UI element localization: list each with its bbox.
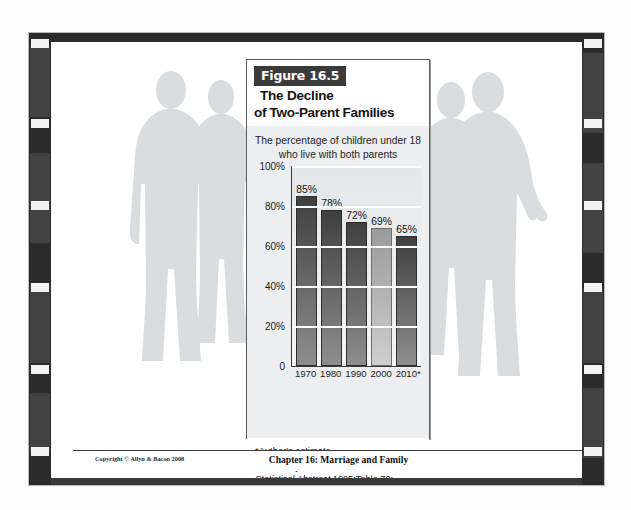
gridline (292, 166, 421, 168)
bar (396, 236, 417, 366)
slide-filmstrip-frame: Figure 16.5The Decline of Two-Parent Fam… (28, 32, 605, 486)
screenshot-root: Figure 16.5The Decline of Two-Parent Fam… (0, 0, 631, 510)
bar-value-label: 85% (296, 184, 317, 195)
x-axis-tick-label: 1970 (295, 368, 316, 379)
filmstrip-top-edge (29, 33, 604, 42)
filmstrip-left-edge (29, 33, 51, 485)
y-axis-tick-label: 60% (265, 241, 285, 252)
bar-column: 78% (321, 166, 342, 366)
gridline (292, 206, 421, 208)
chart-subtitle: The percentage of children under 18 who … (253, 134, 423, 161)
filmstrip-bottom-edge (29, 478, 604, 485)
bar-column: 69% (371, 166, 392, 366)
y-axis-tick-label: 100% (259, 161, 285, 172)
figure-title-line-2: of Two-Parent Families (254, 105, 422, 120)
figure-number-badge: Figure 16.5 (254, 66, 346, 86)
y-axis-tick-label: 20% (265, 321, 285, 332)
bar (346, 222, 367, 366)
bar-value-label: 65% (396, 224, 417, 235)
x-axis-tick-label: 1990 (345, 368, 366, 379)
y-axis-tick-label: 80% (265, 201, 285, 212)
bar-series: 85%78%72%69%65% (292, 166, 421, 366)
figure-card: Figure 16.5The Decline of Two-Parent Fam… (246, 59, 430, 439)
plot-area: 85%78%72%69%65% (291, 166, 421, 367)
x-axis-tick-label: 1980 (320, 368, 341, 379)
x-axis-tick-label: 2000 (370, 368, 391, 379)
source-italic-title: Statistical Abstract (255, 474, 330, 478)
figure-chart-panel: The percentage of children under 18 who … (247, 126, 429, 438)
x-axis-tick-label: 2010* (396, 368, 417, 379)
figure-title-line-1: The Decline (260, 88, 334, 103)
filmstrip-right-edge (582, 33, 604, 485)
gridline (292, 286, 421, 288)
bar-column: 72% (346, 166, 367, 366)
bar-chart: 020%40%60%80%100% 85%78%72%69%65% 197019… (255, 166, 421, 388)
bar-column: 65% (396, 166, 417, 366)
y-axis-tick-label: 40% (265, 281, 285, 292)
y-axis: 020%40%60%80%100% (255, 166, 289, 366)
bar (321, 210, 342, 366)
chapter-title: Chapter 16: Marriage and Family (73, 454, 582, 465)
presentation-slide: Figure 16.5The Decline of Two-Parent Fam… (51, 42, 582, 478)
bar (371, 228, 392, 366)
y-axis-tick-label: 0 (279, 361, 285, 372)
x-axis: 19701980199020002010* (291, 368, 421, 379)
gridline (292, 326, 421, 328)
figure-header: Figure 16.5The Decline of Two-Parent Fam… (247, 60, 429, 124)
bar-value-label: 69% (371, 216, 392, 227)
gridline (292, 246, 421, 248)
bar-column: 85% (296, 166, 317, 366)
bar-value-label: 72% (346, 210, 367, 221)
bar (296, 196, 317, 366)
slide-footer: Copyright © Allyn & Bacon 2008 Chapter 1… (73, 450, 582, 471)
